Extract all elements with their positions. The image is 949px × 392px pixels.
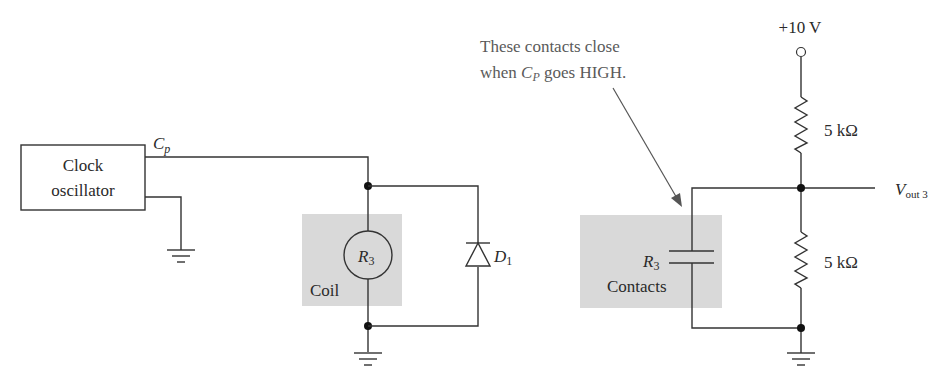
clock-oscillator-box xyxy=(21,145,145,210)
resistor-top-label: 5 kΩ xyxy=(824,121,858,140)
resistor-icon-top xyxy=(795,97,807,153)
ground-icon xyxy=(787,353,815,365)
ground-icon xyxy=(167,250,195,262)
resistor-bottom-label: 5 kΩ xyxy=(824,253,858,272)
supply-label: +10 V xyxy=(779,18,823,37)
relay-circuit-diagram: Clock oscillator Cp R3 Coil D1 These con… xyxy=(0,0,949,392)
cp-label: Cp xyxy=(153,134,170,156)
vout-label: Vout 3 xyxy=(895,180,928,200)
clock-label-line1: Clock xyxy=(63,156,104,175)
ground-icon xyxy=(354,353,382,365)
contacts-label: Contacts xyxy=(607,277,667,296)
annotation-line2: when CP goes HIGH. xyxy=(480,63,626,84)
clock-label-line2: oscillator xyxy=(51,181,115,200)
annotation-arrow-icon xyxy=(613,88,682,207)
annotation-line1: These contacts close xyxy=(480,37,620,56)
supply-terminal-icon xyxy=(797,48,806,57)
junction-dot xyxy=(797,184,805,192)
junction-dot xyxy=(797,324,805,332)
coil-label: Coil xyxy=(310,281,340,300)
resistor-icon-bottom xyxy=(795,232,807,288)
clock-ground-wire xyxy=(145,197,181,250)
diode-label: D1 xyxy=(493,247,512,268)
diode-icon xyxy=(466,243,490,266)
cp-wire xyxy=(145,157,368,186)
